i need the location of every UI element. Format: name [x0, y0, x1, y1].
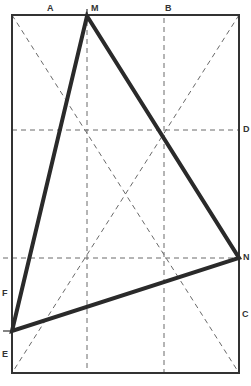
label-point-f: F [2, 288, 8, 298]
label-point-d: D [243, 124, 250, 134]
construction-lines [3, 12, 239, 373]
label-point-n: N [243, 252, 250, 262]
label-point-c: C [242, 309, 249, 319]
label-point-a: A [47, 3, 54, 13]
diagram-container: AMBDNCFE [0, 0, 251, 386]
label-point-b: B [165, 3, 172, 13]
inscribed-triangle [12, 16, 239, 331]
label-point-m: M [91, 3, 99, 13]
geometric-diagram: AMBDNCFE [0, 0, 251, 386]
label-point-e: E [2, 349, 8, 359]
